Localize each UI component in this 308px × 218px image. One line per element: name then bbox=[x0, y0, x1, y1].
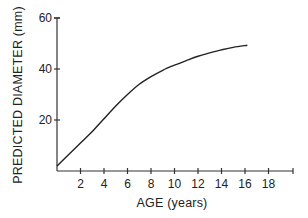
axes bbox=[54, 18, 293, 174]
x-tick-label: 14 bbox=[215, 177, 229, 191]
x-tick-label: 12 bbox=[191, 177, 205, 191]
y-axis-title: PREDICTED DIAMETER (mm) bbox=[11, 6, 25, 184]
y-tick-label: 20 bbox=[39, 113, 53, 127]
chart: 204060 24681012141618 AGE (years) PREDIC… bbox=[0, 0, 308, 218]
x-tick-label: 8 bbox=[148, 177, 155, 191]
x-tick-label: 2 bbox=[77, 177, 84, 191]
data-line bbox=[57, 45, 247, 166]
x-tick-label: 18 bbox=[262, 177, 276, 191]
x-tick-label: 10 bbox=[168, 177, 182, 191]
x-tick-label: 4 bbox=[101, 177, 108, 191]
x-axis-title: AGE (years) bbox=[137, 196, 208, 210]
x-tick-label: 16 bbox=[238, 177, 252, 191]
y-tick-label: 60 bbox=[39, 11, 53, 25]
x-tick-label: 6 bbox=[124, 177, 131, 191]
y-tick-label: 40 bbox=[39, 62, 53, 76]
